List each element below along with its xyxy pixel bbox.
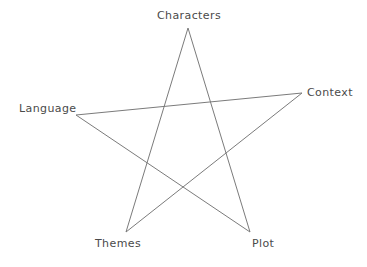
node-label-plot: Plot bbox=[252, 237, 274, 250]
pentagram-star-shape bbox=[76, 28, 302, 232]
node-label-characters: Characters bbox=[157, 9, 221, 22]
node-label-themes: Themes bbox=[95, 237, 141, 250]
diagram-canvas: Characters Context Plot Themes Language bbox=[0, 0, 367, 267]
star-diagram-svg bbox=[0, 0, 367, 267]
node-label-context: Context bbox=[307, 86, 353, 99]
node-label-language: Language bbox=[19, 102, 77, 115]
